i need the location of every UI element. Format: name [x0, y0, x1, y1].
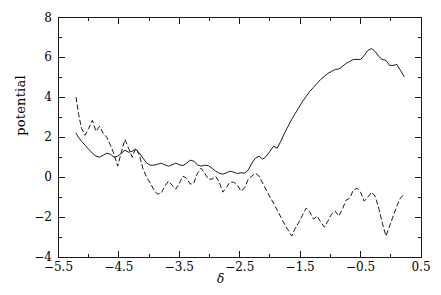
- y-tick-label: 8: [18, 11, 52, 25]
- y-tick-label: −4: [18, 250, 52, 264]
- x-tick-label: −2.5: [225, 260, 254, 274]
- series-solid: [76, 48, 382, 174]
- figure: potential δ −5.5−4.5−3.5−2.5−1.5−0.50.5 …: [0, 0, 441, 295]
- data-series-group: [76, 48, 404, 236]
- y-tick-label: 6: [18, 50, 52, 64]
- y-tick-label: 4: [18, 90, 52, 104]
- series-dashed: [76, 97, 404, 236]
- y-tick-label: −2: [18, 210, 52, 224]
- y-tick-label: 2: [18, 130, 52, 144]
- plot-canvas: [0, 0, 441, 295]
- y-tick-label: 0: [18, 170, 52, 184]
- x-tick-label: −1.5: [286, 260, 315, 274]
- x-tick-label: 0.5: [411, 260, 430, 274]
- x-tick-label: −3.5: [165, 260, 194, 274]
- series-solid-tail: [382, 59, 404, 76]
- x-tick-label: −0.5: [346, 260, 375, 274]
- axis-ticks: [59, 18, 422, 258]
- plot-frame: [59, 18, 422, 258]
- x-tick-label: −4.5: [104, 260, 133, 274]
- x-axis-label: δ: [0, 272, 441, 286]
